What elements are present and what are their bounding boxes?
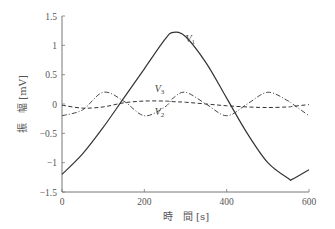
label-v1: V1 <box>186 33 196 46</box>
label-v3: V3 <box>155 83 165 96</box>
y-tick-label: −1.5 <box>40 188 57 198</box>
y-axis-label: 振 幅 [mV] <box>16 75 28 133</box>
series-v1-line <box>62 32 309 180</box>
y-tick-label: 1 <box>52 41 57 51</box>
x-tick-label: 600 <box>302 197 317 207</box>
series-v3-line <box>62 92 309 116</box>
y-tick-label: −1 <box>47 158 57 168</box>
x-axis-label: 時 間 [s] <box>163 211 209 222</box>
x-tick-label: 400 <box>220 197 235 207</box>
x-tick-label: 0 <box>60 197 65 207</box>
line-chart: 1.510.50−0.5−1−1.50200400600 V1 V3 V2 時 … <box>0 0 335 229</box>
y-tick-label: 0 <box>52 100 57 110</box>
series-lines <box>62 32 309 180</box>
x-tick-label: 200 <box>137 197 152 207</box>
axes: 1.510.50−0.5−1−1.50200400600 <box>40 12 317 208</box>
y-tick-label: 1.5 <box>45 12 57 22</box>
y-tick-label: 0.5 <box>45 70 57 80</box>
y-tick-label: −0.5 <box>40 129 57 139</box>
series-annotations: V1 V3 V2 <box>155 33 196 118</box>
series-v2-line <box>62 101 309 108</box>
